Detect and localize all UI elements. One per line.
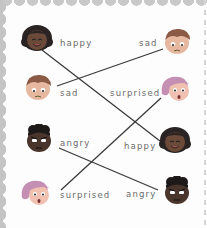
match-line-sad bbox=[57, 49, 163, 86]
angry-child-face-icon bbox=[23, 124, 55, 154]
left-label-sad: sad bbox=[60, 88, 79, 98]
surprised-girl-face-icon bbox=[20, 178, 52, 208]
happy-girl-face-icon bbox=[159, 125, 191, 155]
right-label-angry: angry bbox=[126, 189, 157, 199]
angry-child-face-icon bbox=[161, 176, 193, 206]
match-line-angry bbox=[59, 148, 158, 190]
right-label-happy: happy bbox=[124, 141, 156, 151]
worksheet: happy sad angry surprised sad surprised bbox=[0, 0, 207, 228]
right-label-surprised: surprised bbox=[110, 88, 160, 98]
happy-girl-face-icon bbox=[21, 23, 53, 53]
sad-boy-face-icon bbox=[22, 72, 54, 102]
left-label-happy: happy bbox=[60, 38, 92, 48]
left-label-surprised: surprised bbox=[60, 190, 110, 200]
left-label-angry: angry bbox=[60, 138, 91, 148]
right-label-sad: sad bbox=[139, 38, 158, 48]
surprised-girl-face-icon bbox=[160, 74, 192, 104]
sad-boy-face-icon bbox=[161, 26, 193, 56]
